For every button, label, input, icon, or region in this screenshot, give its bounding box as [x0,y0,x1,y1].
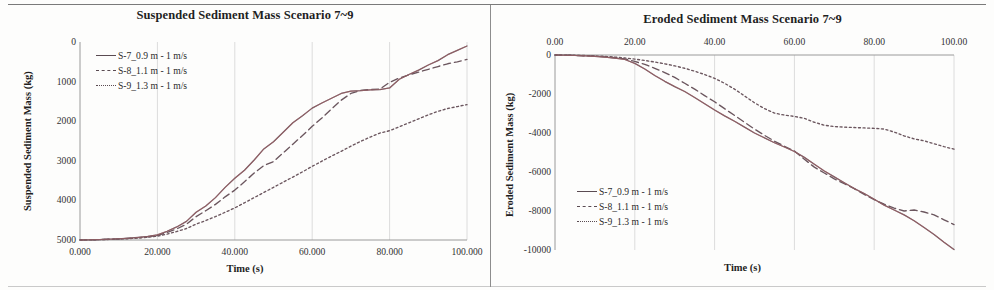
x-tick-label: 20.00 [605,36,665,47]
x-tick-label: 80.00 [844,36,904,47]
x-tick-label: 100.00 [924,36,984,47]
y-tick-label: 2000 [30,115,76,126]
legend-item[interactable]: S-8_1.1 m - 1 m/s [96,63,187,78]
legend-item[interactable]: S-9_1.3 m - 1 m/s [96,78,187,93]
x-tick-label: 100.000 [437,246,497,257]
x-tick-label: 40.000 [205,246,265,257]
legend-line-swatch-solid [577,188,597,195]
y-tick-label: 4000 [30,194,76,205]
legend-line-swatch-dashed [96,67,116,74]
y-tick-label: -4000 [505,127,551,138]
legend-line-swatch-dashed [577,203,597,210]
y-tick-label: 0 [30,36,76,47]
x-tick-label: 0.000 [50,246,110,257]
x-tick-label: 0.00 [525,36,585,47]
legend-line-swatch-dotted [96,82,116,89]
legend-suspended: S-7_0.9 m - 1 m/sS-8_1.1 m - 1 m/sS-9_1.… [96,48,187,93]
legend-label: S-7_0.9 m - 1 m/s [118,48,187,63]
chart-panel-suspended: Suspended Sediment Mass Scenario 7~9 Sus… [0,0,490,290]
x-tick-label: 60.000 [282,246,342,257]
x-axis-label-eroded: Time (s) [491,262,994,273]
legend-item[interactable]: S-7_0.9 m - 1 m/s [96,48,187,63]
y-tick-label: -2000 [505,88,551,99]
x-tick-label: 60.00 [764,36,824,47]
legend-eroded: S-7_0.9 m - 1 m/sS-8_1.1 m - 1 m/sS-9_1.… [577,184,668,229]
legend-label: S-9_1.3 m - 1 m/s [599,214,668,229]
figure-container: Suspended Sediment Mass Scenario 7~9 Sus… [0,0,994,290]
x-tick-label: 80.000 [360,246,420,257]
x-axis-label-suspended: Time (s) [0,263,490,274]
y-tick-label: -6000 [505,166,551,177]
legend-label: S-8_1.1 m - 1 m/s [118,63,187,78]
y-tick-label: 5000 [30,234,76,245]
legend-item[interactable]: S-9_1.3 m - 1 m/s [577,214,668,229]
x-tick-label: 20.000 [127,246,187,257]
y-tick-label: -8000 [505,205,551,216]
legend-label: S-8_1.1 m - 1 m/s [599,199,668,214]
legend-line-swatch-dotted [577,218,597,225]
x-tick-label: 40.00 [685,36,745,47]
legend-line-swatch-solid [96,52,116,59]
chart-panel-eroded: Eroded Sediment Mass Scenario 7~9 Eroded… [491,0,994,290]
y-tick-label: 3000 [30,155,76,166]
y-tick-label: 1000 [30,76,76,87]
legend-label: S-9_1.3 m - 1 m/s [118,78,187,93]
legend-item[interactable]: S-7_0.9 m - 1 m/s [577,184,668,199]
y-tick-label: 0 [505,49,551,60]
y-tick-label: -10000 [505,244,551,255]
legend-item[interactable]: S-8_1.1 m - 1 m/s [577,199,668,214]
legend-label: S-7_0.9 m - 1 m/s [599,184,668,199]
